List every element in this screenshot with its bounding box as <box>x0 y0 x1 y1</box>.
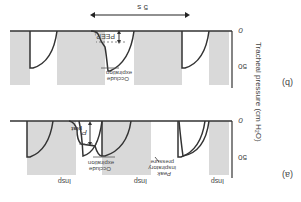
band <box>209 31 229 85</box>
peepi-label: PEEP <box>96 33 115 40</box>
occlude-label: Occlude <box>88 166 111 172</box>
band <box>10 31 30 85</box>
tick-50-a: 50 <box>238 153 247 162</box>
band <box>209 121 229 175</box>
panel-label-b: (b) <box>282 78 293 88</box>
tick-50-b: 50 <box>238 62 247 71</box>
insp-label: Insp <box>134 177 147 185</box>
insp-label: Insp <box>211 177 224 185</box>
insp-label: Insp <box>58 177 71 185</box>
peak-label: inspiratory <box>148 165 176 171</box>
occlude-label: expiration <box>88 160 114 166</box>
peak-label: Peak <box>156 171 171 177</box>
arrow-head-icon <box>185 12 190 18</box>
pplat-sub: plat <box>71 126 82 132</box>
tracheal-pressure-figure: (a) (b) 0 50 0 50 Tracheal pressure (cm … <box>0 0 301 202</box>
figure-svg: (a) (b) 0 50 0 50 Tracheal pressure (cm … <box>0 0 301 202</box>
panel-a <box>10 121 232 178</box>
band <box>134 31 182 85</box>
y-axis-label: Tracheal pressure (cm H₂O) <box>254 42 263 142</box>
peepi-sub: i <box>95 31 96 37</box>
peak-label: pressure <box>150 159 174 165</box>
breath-1 <box>182 31 209 68</box>
occlude-label: Occlude <box>106 76 129 82</box>
tick-0-b: 0 <box>238 26 243 35</box>
tick-0-a: 0 <box>238 116 243 125</box>
arrow-head-icon <box>90 12 95 18</box>
duration-label: 5 s <box>137 3 148 12</box>
occlude-label: expiration <box>106 70 132 76</box>
breath-3 <box>30 31 57 68</box>
panel-label-a: (a) <box>282 170 293 180</box>
